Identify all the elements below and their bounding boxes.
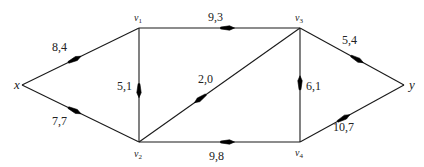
edge-label: 6,1 — [306, 79, 321, 93]
arrow-icon — [194, 94, 206, 103]
arrow-icon — [221, 140, 235, 144]
edge-label: 5,4 — [342, 33, 357, 47]
node-subscript: 1 — [138, 17, 142, 25]
edge-x-v2 — [22, 85, 139, 142]
edge-label: 9,8 — [209, 149, 224, 163]
node-name: y — [407, 77, 415, 92]
edge-label: 5,1 — [117, 79, 132, 93]
node-label-v4: v4 — [295, 147, 303, 160]
arrow-icon — [68, 56, 81, 63]
edge-v3-v2 — [139, 28, 300, 142]
node-subscript: 2 — [138, 153, 142, 161]
node-label-x: x — [13, 77, 20, 92]
arrow-icon — [298, 76, 302, 90]
edge-v2-v4 — [139, 140, 300, 144]
node-label-v2: v2 — [134, 148, 142, 161]
arrow-icon — [221, 26, 235, 30]
node-label-v3: v3 — [295, 12, 303, 25]
edge-label: 7,7 — [52, 114, 67, 128]
arrow-icon — [68, 107, 81, 114]
edge-v1-v2 — [137, 28, 141, 142]
edge-line — [139, 28, 300, 142]
edge-v4-v3 — [298, 28, 302, 142]
node-label-y: y — [407, 77, 415, 92]
edge-x-v1 — [22, 28, 139, 85]
node-subscript: 3 — [299, 17, 303, 25]
node-subscript: 4 — [299, 152, 303, 160]
edge-label: 10,7 — [333, 120, 354, 134]
flow-network-diagram: 8,47,79,35,12,06,19,85,410,7 xv1v3v2v4y — [0, 0, 424, 167]
edge-label: 9,3 — [208, 10, 223, 24]
node-label-v1: v1 — [134, 12, 142, 25]
edge-label: 8,4 — [52, 40, 67, 54]
edge-label: 2,0 — [198, 72, 213, 86]
arrow-icon — [351, 55, 364, 63]
node-name: x — [13, 77, 20, 92]
arrow-icon — [137, 84, 141, 98]
labels-layer: 8,47,79,35,12,06,19,85,410,7 — [52, 10, 357, 163]
edge-v1-v3 — [139, 26, 300, 30]
